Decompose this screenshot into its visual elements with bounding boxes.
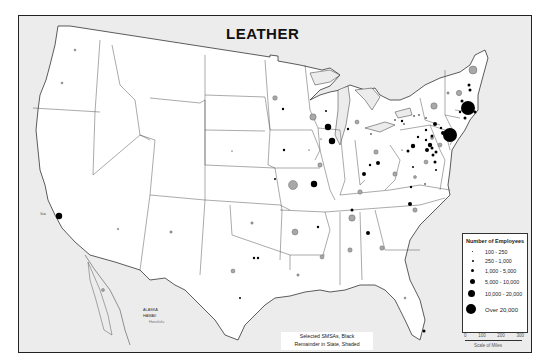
map-note: Selected SMSAs, Black Remainder in State… [281,332,373,350]
legend-dot-icon [472,260,474,262]
honolulu-label: Honolulu [143,319,164,325]
city-label: Tole [40,212,46,216]
legend-title: Number of Employees [466,238,524,244]
legend-dot-icon [466,304,476,314]
scale-line [465,340,522,341]
legend: Number of Employees 100 - 250 250 - 1,00… [462,233,528,333]
scale-ticks: 0 100 200 300 [464,333,524,338]
scale-bar: 0 100 200 300 Scale of Miles [462,333,526,351]
legend-item: 5,000 - 10,000 [463,279,527,289]
legend-dot-icon [468,290,475,297]
map-title: LEATHER [226,25,299,42]
inset-labels: ALASKA HAWAII Honolulu [143,307,164,325]
legend-item: 1,000 - 5,000 [463,268,527,278]
legend-item: 10,000 - 20,000 [463,291,527,301]
note-line-2: Remainder in State, Shaded [281,340,373,348]
note-line-1: Selected SMSAs, Black [281,332,373,340]
baja-coast [88,262,112,335]
legend-item: Over 20,000 [463,307,527,317]
legend-dot-icon [470,279,475,284]
scale-label: Scale of Miles [474,343,502,348]
legend-dot-icon [472,251,473,252]
legend-dot-icon [471,269,474,272]
legend-item: 250 - 1,000 [463,258,527,268]
us-landmass [36,26,488,340]
